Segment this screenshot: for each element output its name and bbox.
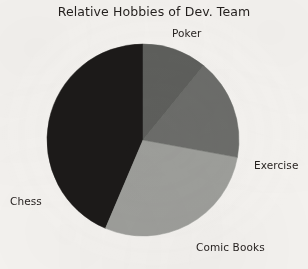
slice-label-chess: Chess xyxy=(10,195,42,207)
slice-label-comic-books: Comic Books xyxy=(196,241,265,253)
pie-chart xyxy=(0,0,308,269)
pie-slice-group xyxy=(47,44,239,236)
slice-label-poker: Poker xyxy=(172,27,201,39)
slice-label-exercise: Exercise xyxy=(254,159,299,171)
pie-chart-screenshot: Relative Hobbies of Dev. Team Poker Exer… xyxy=(0,0,308,269)
